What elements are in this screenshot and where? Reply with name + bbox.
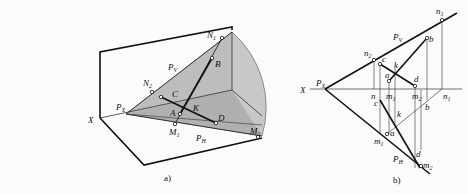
svg-text:n2: n2: [364, 48, 372, 59]
svg-text:c: c: [374, 98, 378, 108]
svg-text:C: C: [172, 89, 179, 99]
figure-a: X PX PV PH N1 N2 M1 M2 A B C D K a): [87, 27, 266, 183]
svg-text:PX: PX: [115, 102, 126, 113]
svg-text:m1: m1: [374, 136, 384, 147]
figure-b: X PX PV PH n1 n2 n m1 m2 n1 m1 m2 a b c …: [299, 6, 462, 185]
svg-text:c: c: [382, 54, 386, 64]
svg-text:N2: N2: [142, 78, 152, 89]
svg-text:d: d: [416, 149, 421, 159]
diagram-figure: X PX PV PH N1 N2 M1 M2 A B C D K a): [0, 0, 468, 194]
svg-text:n1: n1: [443, 91, 451, 102]
caption-a: a): [164, 173, 171, 183]
svg-text:b: b: [425, 102, 430, 112]
svg-text:PV: PV: [167, 62, 179, 73]
svg-text:d: d: [414, 74, 419, 84]
svg-text:K: K: [192, 103, 200, 113]
svg-text:m2: m2: [423, 160, 433, 171]
svg-text:X: X: [299, 85, 306, 95]
label-x: X: [87, 115, 94, 125]
svg-text:D: D: [217, 113, 225, 123]
svg-text:PV: PV: [392, 32, 404, 43]
svg-text:a: a: [390, 128, 395, 138]
svg-text:b: b: [429, 34, 434, 44]
svg-text:PH: PH: [392, 154, 404, 165]
svg-text:m1: m1: [386, 91, 396, 102]
svg-text:k: k: [394, 60, 399, 70]
svg-text:m2: m2: [412, 91, 422, 102]
svg-text:PH: PH: [195, 133, 207, 144]
svg-text:A: A: [169, 108, 176, 118]
svg-text:n1: n1: [436, 6, 444, 17]
svg-text:k: k: [397, 109, 402, 119]
svg-text:PX: PX: [315, 78, 326, 89]
svg-text:N1: N1: [206, 30, 216, 41]
svg-text:B: B: [215, 59, 221, 69]
svg-text:M1: M1: [168, 127, 180, 138]
svg-text:a: a: [385, 70, 390, 80]
projection-diagram: X PX PV PH N1 N2 M1 M2 A B C D K a): [0, 0, 468, 194]
caption-b: b): [393, 175, 401, 185]
